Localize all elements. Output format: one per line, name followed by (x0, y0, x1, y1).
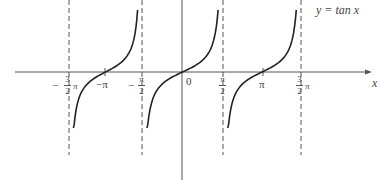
origin-label: 0 (186, 76, 192, 87)
x-axis-arrow-icon (365, 70, 372, 75)
tick-label-3-2-pi: 32 (296, 75, 303, 96)
tick-label-neg-3-2-pi-sym: π (73, 82, 78, 91)
tick-label-neg-pi-2: π2 (138, 75, 145, 96)
tick-label-neg-pi-2-minus: − (128, 80, 134, 91)
tick-label-3-2-pi-sym: π (305, 82, 310, 91)
tick-label-neg-3-2-pi: 32 (64, 75, 71, 96)
x-axis-label: x (372, 77, 377, 89)
tick-label-neg-3-2-pi-minus: − (52, 80, 58, 91)
tan-graph (0, 0, 388, 185)
tick-label-pi-2: π2 (219, 75, 226, 96)
tick-label-neg-pi: −π (96, 79, 108, 90)
tick-label-pi: π (259, 79, 265, 90)
branch-pi (228, 10, 297, 128)
curve-label: y = tan x (316, 4, 359, 16)
